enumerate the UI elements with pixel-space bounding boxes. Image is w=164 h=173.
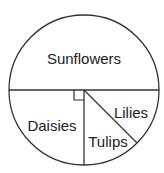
label-sunflowers: Sunflowers xyxy=(47,50,121,67)
label-tulips: Tulips xyxy=(88,133,127,150)
label-daisies: Daisies xyxy=(27,117,76,134)
label-lilies: Lilies xyxy=(114,104,148,121)
pie-chart: Sunflowers Daisies Lilies Tulips xyxy=(0,0,164,173)
